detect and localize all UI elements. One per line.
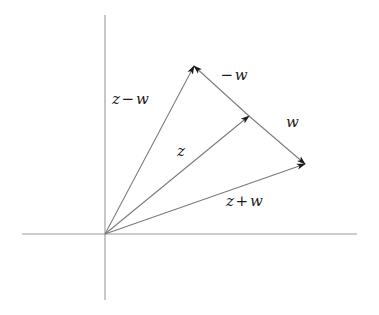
label-z-plus-w-first: z <box>226 192 234 210</box>
label-w-second: w <box>286 113 299 131</box>
label-w: w <box>283 113 299 131</box>
label-z: z <box>174 142 185 160</box>
label-minus-w-operator: − <box>219 66 235 84</box>
label-z-minus-w-operator: − <box>120 90 136 108</box>
label-minus-w-second: w <box>235 66 248 84</box>
label-z-plus-w-second: w <box>250 192 263 210</box>
axes-group <box>22 15 357 300</box>
figure-canvas: z−w −w w z z+w <box>0 0 379 315</box>
vector-z-plus-w <box>105 164 305 234</box>
label-z-plus-w-operator: + <box>234 192 250 210</box>
label-minus-w: −w <box>219 66 248 84</box>
vector-diagram <box>0 0 379 315</box>
vector-z <box>105 116 249 234</box>
label-z-plus-w: z+w <box>226 192 263 210</box>
label-z-second: z <box>177 142 185 160</box>
label-z-minus-w-first: z <box>112 90 120 108</box>
label-z-minus-w-second: w <box>136 90 149 108</box>
label-z-minus-w: z−w <box>112 90 149 108</box>
